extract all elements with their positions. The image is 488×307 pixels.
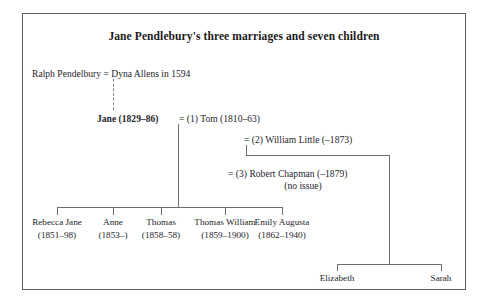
- child-drop-5: [282, 207, 283, 215]
- child-node: Thomas (1858–58): [131, 216, 191, 243]
- child-name: Thomas: [131, 216, 191, 229]
- descent-line-dashed: [113, 79, 114, 110]
- figure-title: Jane Pendlebury's three marriages and se…: [22, 30, 466, 42]
- child-name: Emily Augusta: [243, 216, 321, 229]
- genealogy-figure: Jane Pendlebury's three marriages and se…: [0, 0, 488, 307]
- marriage2-connector-horizontal: [246, 155, 389, 156]
- sibling-bar-marriage1: [57, 207, 282, 208]
- marriage-1: = (1) Tom (1810–63): [179, 113, 260, 125]
- child-dates: (1862–1940): [243, 229, 321, 242]
- child-drop-4: [225, 207, 226, 215]
- marriage-2: = (2) William Little (–1873): [244, 134, 352, 146]
- child-drop-2: [113, 207, 114, 215]
- child-name: Sarah: [411, 272, 471, 285]
- grandchild-drop-1: [337, 264, 338, 271]
- marriage2-drop-line: [246, 145, 247, 155]
- generation1-couple: Ralph Pendelbury = Dyna Allens in 1594: [32, 68, 190, 80]
- child-node: Elizabeth: [305, 272, 369, 285]
- grandchild-drop-2: [441, 264, 442, 271]
- marriage1-descent-line: [178, 124, 179, 207]
- child-node: Sarah: [411, 272, 471, 285]
- subject-jane: Jane (1829–86): [97, 113, 159, 125]
- sibling-bar-marriage2: [337, 264, 441, 265]
- child-name: Elizabeth: [305, 272, 369, 285]
- child-node: Emily Augusta (1862–1940): [243, 216, 321, 243]
- marriage2-descent-line: [389, 155, 390, 264]
- child-dates: (1858–58): [131, 229, 191, 242]
- figure-border: [22, 13, 466, 290]
- child-drop-3: [161, 207, 162, 215]
- marriage-3-note: (no issue): [228, 180, 378, 192]
- child-drop-1: [57, 207, 58, 215]
- marriage-3: = (3) Robert Chapman (–1879): [228, 168, 347, 180]
